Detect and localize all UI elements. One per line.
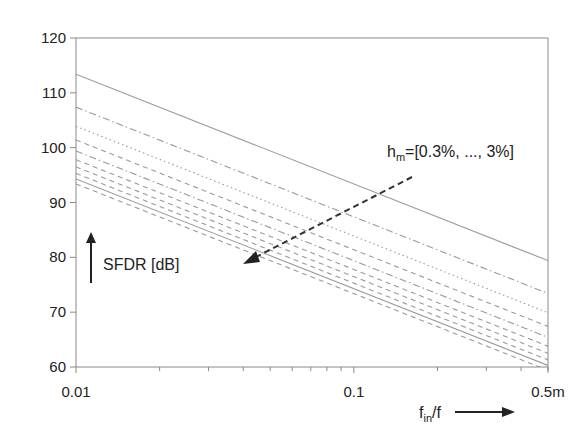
hm-direction-arrow	[243, 177, 412, 264]
plot-frame	[76, 38, 548, 367]
hm-annotation: hm=[0.3%, ..., 3%]	[387, 143, 514, 163]
hm-annotation-text: =[0.3%, ..., 3%]	[405, 143, 514, 160]
x-axis-label: fin/f	[419, 404, 441, 424]
series-line	[76, 184, 548, 370]
y-tick-label: 100	[41, 139, 66, 156]
hm-annotation-prefix: h	[387, 143, 396, 160]
y-axis-label-group: SFDR [dB]	[86, 232, 179, 283]
y-tick-label: 80	[49, 248, 66, 265]
arrowhead-icon	[243, 251, 260, 264]
x-tick-label: 0.5m	[531, 383, 564, 400]
series-line	[76, 151, 548, 337]
y-tick-label: 110	[42, 84, 66, 101]
x-axis-label-group: fin/f	[419, 404, 515, 424]
axes	[70, 38, 548, 373]
y-tick-label: 90	[49, 194, 66, 211]
y-tick-label: 70	[49, 303, 66, 320]
tick-labels: 607080901001101200.010.10.5m	[41, 29, 565, 400]
up-arrow-icon	[86, 232, 96, 243]
series-line	[76, 160, 548, 347]
y-tick-label: 60	[49, 358, 66, 375]
series-lines	[76, 74, 548, 370]
y-tick-label: 120	[41, 29, 66, 46]
sfdr-chart: 607080901001101200.010.10.5m hm=[0.3%, .…	[0, 0, 581, 446]
y-axis-label: SFDR [dB]	[103, 256, 179, 273]
x-tick-label: 0.1	[343, 383, 364, 400]
hm-annotation-sub: m	[396, 151, 405, 163]
x-tick-label: 0.01	[61, 383, 90, 400]
right-arrow-icon	[502, 407, 515, 417]
